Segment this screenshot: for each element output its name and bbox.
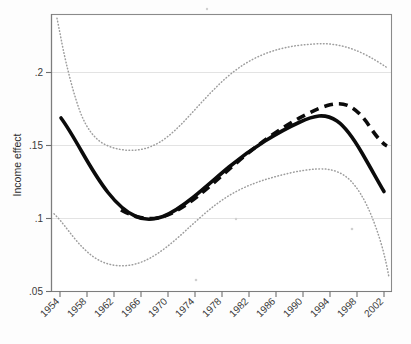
plot-background bbox=[51, 14, 392, 292]
scan-speck bbox=[235, 218, 237, 220]
scan-speck bbox=[195, 279, 198, 282]
x-tick-label-1986: 1986 bbox=[254, 295, 278, 319]
x-tick-label-1974: 1974 bbox=[173, 295, 197, 319]
y-tick-label-0.15: .15 bbox=[29, 140, 43, 151]
x-tick-label-1990: 1990 bbox=[281, 295, 305, 319]
x-tick-label-1966: 1966 bbox=[119, 295, 143, 319]
x-axis-ticks bbox=[60, 292, 384, 298]
x-tick-label-1982: 1982 bbox=[227, 295, 251, 319]
scan-speck bbox=[351, 228, 354, 231]
x-tick-label-2002: 2002 bbox=[362, 295, 386, 319]
y-tick-label-0.2: .2 bbox=[35, 67, 44, 78]
x-tick-label-1962: 1962 bbox=[92, 295, 116, 319]
chart-figure: .2 .15 .1 .05 Income effect 1954 1958 19… bbox=[0, 0, 411, 344]
y-axis-ticks bbox=[46, 73, 52, 292]
x-tick-label-1994: 1994 bbox=[308, 295, 332, 319]
x-tick-label-1954: 1954 bbox=[38, 295, 62, 319]
y-axis-title: Income effect bbox=[11, 133, 23, 196]
x-tick-label-1970: 1970 bbox=[146, 295, 170, 319]
scan-speck bbox=[206, 8, 208, 10]
x-tick-label-1958: 1958 bbox=[65, 295, 89, 319]
x-tick-label-1978: 1978 bbox=[200, 295, 224, 319]
line-chart-svg: .2 .15 .1 .05 Income effect 1954 1958 19… bbox=[0, 0, 411, 344]
y-tick-label-0.1: .1 bbox=[35, 213, 44, 224]
x-tick-label-1998: 1998 bbox=[335, 295, 359, 319]
y-tick-label-0.05: .05 bbox=[29, 286, 43, 297]
